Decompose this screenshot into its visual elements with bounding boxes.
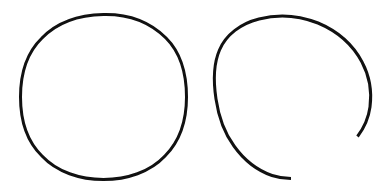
drawing-canvas [0, 0, 391, 196]
figure-svg [0, 0, 391, 196]
